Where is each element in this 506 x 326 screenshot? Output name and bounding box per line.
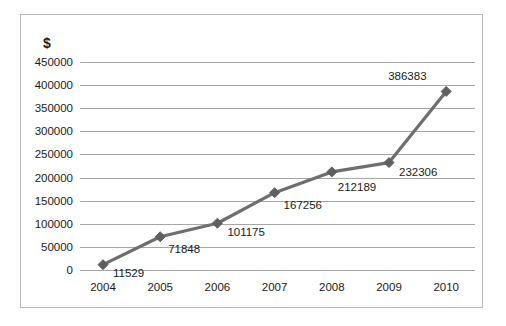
data-point-label: 386383 [388, 70, 426, 82]
y-axis-tick-label: 400000 [35, 79, 73, 91]
y-axis-tick-labels: 4500004000003500003000002500002000001500… [35, 56, 73, 276]
line-chart: 4500004000003500003000002500002000001500… [0, 0, 506, 326]
x-axis-tick-label: 2006 [205, 281, 231, 293]
data-point-marker [155, 232, 165, 242]
x-axis-tick-label: 2008 [319, 281, 345, 293]
x-axis-tick-label: 2010 [433, 281, 459, 293]
y-axis-tick-label: 0 [67, 264, 73, 276]
y-axis-title: $ [43, 35, 51, 51]
x-axis-tick-labels: 2004200520062007200820092010 [90, 281, 459, 293]
y-axis-tick-label: 50000 [41, 241, 73, 253]
data-point-marker [327, 167, 337, 177]
y-axis-tick-label: 450000 [35, 56, 73, 68]
data-point-label: 101175 [227, 226, 265, 238]
x-axis-tick-label: 2005 [147, 281, 173, 293]
y-axis-tick-label: 350000 [35, 102, 73, 114]
data-point-label: 11529 [113, 267, 144, 279]
data-point-label: 167256 [284, 199, 322, 211]
x-axis-tick-label: 2004 [90, 281, 116, 293]
data-point-marker [98, 260, 108, 270]
y-axis-tick-label: 200000 [35, 172, 73, 184]
y-axis-tick-label: 250000 [35, 148, 73, 160]
y-axis-tick-label: 100000 [35, 218, 73, 230]
data-point-label: 232306 [399, 166, 437, 178]
data-point-label: 212189 [338, 181, 376, 193]
y-axis-tick-label: 150000 [35, 195, 73, 207]
x-axis-tick-label: 2009 [376, 281, 402, 293]
x-axis-tick-label: 2007 [262, 281, 288, 293]
y-axis-tick-label: 300000 [35, 125, 73, 137]
data-point-label: 71848 [168, 243, 200, 255]
